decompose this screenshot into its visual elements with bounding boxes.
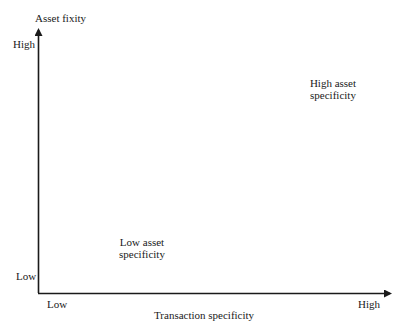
quadrant-label-line: specificity: [298, 89, 368, 101]
x-axis-high-label: High: [358, 298, 380, 310]
quadrant-label-low-asset-specificity: Low asset specificity: [107, 236, 177, 260]
y-axis-title: Asset fixity: [35, 12, 86, 24]
y-axis-low-label: Low: [16, 270, 36, 282]
x-axis-title: Transaction specificity: [154, 309, 254, 321]
y-axis-high-label: High: [13, 38, 35, 50]
quadrant-label-line: specificity: [107, 248, 177, 260]
quadrant-label-line: Low asset: [107, 236, 177, 248]
quadrant-label-high-asset-specificity: High asset specificity: [298, 77, 368, 101]
x-axis-low-label: Low: [47, 298, 67, 310]
axes: [0, 0, 406, 336]
quadrant-label-line: High asset: [298, 77, 368, 89]
